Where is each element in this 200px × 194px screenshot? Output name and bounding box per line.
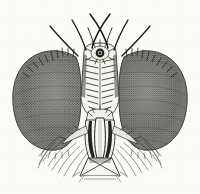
labrum-blade (95, 118, 106, 158)
fly-head-illustration (0, 0, 200, 194)
labellum (80, 158, 120, 183)
illustration-figure (0, 0, 200, 194)
proboscis (85, 105, 115, 160)
